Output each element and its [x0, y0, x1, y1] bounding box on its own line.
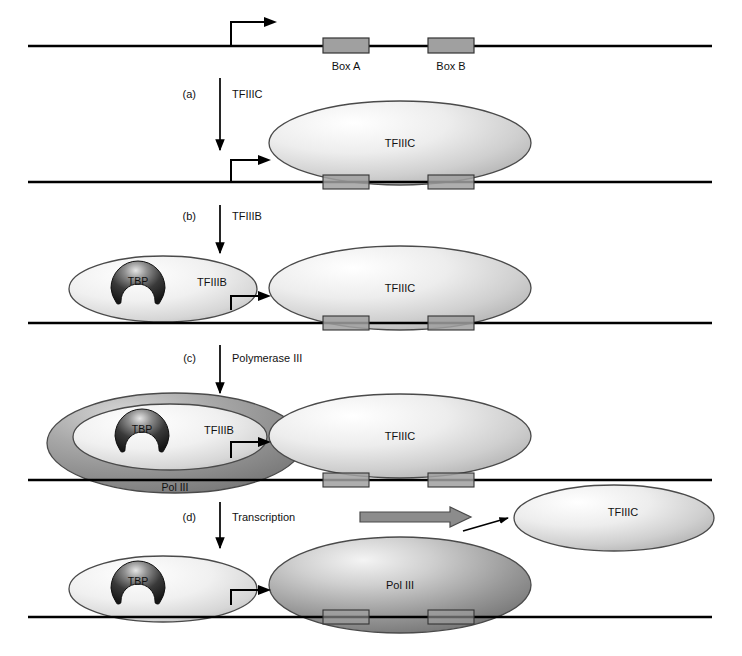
transcription-start-arrow: [231, 155, 271, 182]
box-b-label: Box B: [436, 60, 465, 72]
promoter-box-a: [323, 473, 369, 487]
panel-polymerase-recruited: TFIIIC TFIIIB TBP Pol III: [28, 393, 712, 493]
step-c-arrow-group: (c) Polymerase III: [183, 345, 302, 393]
step-b-factor: TFIIIB: [232, 210, 262, 222]
panel-tfiiib-recruited: TFIIIC TFIIIB TBP: [28, 246, 712, 330]
transcription-start-arrow: [231, 17, 277, 46]
pol3-label: Pol III: [162, 481, 189, 493]
promoter-box-b: [428, 316, 474, 330]
tbp-label: TBP: [128, 275, 148, 287]
tfiiic-label: TFIIIC: [385, 282, 416, 294]
tfiiib-ellipse: [73, 404, 267, 470]
promoter-box-b: [428, 175, 474, 189]
step-d-letter: (d): [183, 511, 196, 523]
promoter-box-a: [323, 610, 369, 624]
tfiiic-label: TFIIIC: [385, 137, 416, 149]
pol3-label: Pol III: [386, 579, 414, 591]
tbp-label: TBP: [132, 423, 152, 435]
tfiiib-label: TFIIIB: [197, 276, 227, 288]
step-a-letter: (a): [183, 88, 196, 100]
promoter-box-a: [323, 316, 369, 330]
figure-root: Box A Box B (a) TFIIIC TFIIIC (b) TFIIIB…: [0, 0, 742, 656]
panel-naked-promoter: Box A Box B: [28, 17, 712, 72]
step-d-arrow-group: (d) Transcription: [183, 502, 296, 548]
tfiiic-label: TFIIIC: [385, 430, 416, 442]
step-a-arrow-group: (a) TFIIIC: [183, 78, 263, 150]
tfiiic-release-arrow: [463, 518, 508, 531]
step-b-arrow-group: (b) TFIIIB: [183, 205, 262, 253]
tfiiic-ellipse: [514, 485, 714, 551]
tbp-label: TBP: [128, 575, 148, 587]
box-a-label: Box A: [332, 60, 361, 72]
step-d-factor: Transcription: [232, 511, 295, 523]
step-a-factor: TFIIIC: [232, 88, 263, 100]
step-c-letter: (c): [183, 352, 196, 364]
promoter-box-b: [428, 473, 474, 487]
promoter-box-b: [428, 610, 474, 624]
tfiiib-label: TFIIIB: [204, 424, 234, 436]
tfiiic-label: TFIIIC: [608, 506, 639, 518]
promoter-box-b: [428, 38, 474, 53]
step-b-letter: (b): [183, 210, 196, 222]
promoter-box-a: [323, 175, 369, 189]
panel-tfiiic-bound: TFIIIC: [28, 101, 712, 189]
released-tfiiic: TFIIIC: [514, 485, 714, 551]
diagram-canvas: Box A Box B (a) TFIIIC TFIIIC (b) TFIIIB…: [0, 0, 742, 656]
polymerase-movement-block-arrow: [360, 507, 471, 527]
promoter-box-a: [323, 38, 369, 53]
step-c-factor: Polymerase III: [232, 352, 302, 364]
